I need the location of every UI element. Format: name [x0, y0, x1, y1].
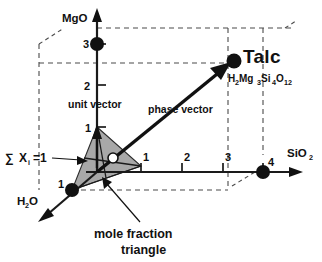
- axis-label-sio2-subscript: 2: [309, 153, 313, 162]
- construction-line-bottomright-diagonal: [232, 172, 255, 186]
- axis-label-mgo: MgO: [62, 12, 88, 24]
- node-dot-talc: [227, 54, 242, 69]
- formula-part-si: Si: [261, 73, 271, 84]
- formula-part-mg: Mg: [239, 73, 253, 84]
- tick-label-sio2-2: 2: [184, 151, 190, 163]
- tick-label-h2o-1: 1: [58, 178, 64, 190]
- formula-sub-o: 12: [284, 78, 292, 87]
- diagram-canvas: MgO SiO 2 H 2 O 1 2 3 1 2 3 4 1 unit vec…: [0, 0, 322, 262]
- axis-sio2-arrowhead: [289, 167, 303, 177]
- tick-label-sio2-4: 4: [268, 156, 275, 168]
- tick-label-sio2-3: 3: [225, 151, 231, 163]
- tick-label-mgo-3: 3: [83, 38, 89, 50]
- construction-line-topright-diagonal: [285, 21, 296, 28]
- axis-label-sio2-group: SiO 2: [287, 147, 313, 162]
- annotation-phase-vector: phase vector: [148, 103, 213, 115]
- annotation-unit-vector: unit vector: [68, 98, 122, 110]
- construction-line-mgo3-diagonal: [39, 28, 64, 44]
- tick-label-mgo-2: 2: [84, 80, 90, 92]
- ternary-diagram-figure: MgO SiO 2 H 2 O 1 2 3 1 2 3 4 1 unit vec…: [0, 0, 322, 262]
- leader-line-sum-constraint: [52, 158, 81, 160]
- phase-formula-talc-group: H 2 Mg 3 Si 4 O 12: [228, 73, 292, 87]
- axis-label-sio2: SiO: [287, 147, 307, 159]
- phase-label-talc: Talc: [243, 46, 281, 67]
- node-circle-triangle-intersection: [108, 153, 118, 163]
- axis-mgo-arrowhead: [92, 8, 102, 22]
- node-dot-h2o-1: [65, 183, 79, 197]
- caption-line-1: mole fraction: [94, 227, 173, 241]
- sum-constraint-variable: X: [19, 151, 27, 165]
- annotation-sum-constraint-group: ∑ X i =1: [5, 151, 47, 166]
- axis-label-h2o-tail: O: [29, 195, 38, 207]
- sum-constraint-subscript: i: [28, 159, 30, 166]
- sum-constraint-equals: =1: [33, 151, 47, 165]
- caption-line-2: triangle: [121, 243, 166, 257]
- formula-part-o: O: [276, 73, 284, 84]
- node-dot-mgo-3: [90, 37, 104, 51]
- sum-constraint-sigma: ∑: [5, 151, 14, 165]
- tick-label-mgo-1: 1: [85, 122, 91, 134]
- axis-label-h2o-group: H 2 O: [17, 195, 38, 210]
- tick-label-sio2-1: 1: [143, 151, 149, 163]
